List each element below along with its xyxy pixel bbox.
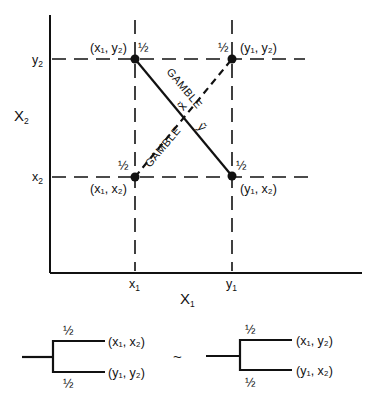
label-point-y1-x2: (y₁, x₂) xyxy=(240,182,277,196)
tick-y2: y2 xyxy=(32,53,43,69)
label-point-x1-x2: (x₁, x₂) xyxy=(90,182,127,196)
right-tree-bottom-prob: ½ xyxy=(245,376,256,390)
left-tree-top-prob: ½ xyxy=(63,324,74,338)
point-x1-x2 xyxy=(131,173,140,182)
left-tree-bottom-prob: ½ xyxy=(63,377,74,391)
prob-point-x1-x2: ½ xyxy=(118,159,129,173)
tick-x1: x1 xyxy=(129,277,140,293)
gamble-y-name: GAMBLE xyxy=(164,66,205,111)
y-axis-title: X2 xyxy=(14,107,29,126)
point-x1-y2 xyxy=(131,55,140,64)
right-tree-bottom-outcome: (y₁, x₂) xyxy=(296,364,333,378)
prob-point-y1-x2: ½ xyxy=(236,159,247,173)
tick-y1: y1 xyxy=(226,277,237,293)
label-point-x1-y2: (x₁, y₂) xyxy=(90,41,127,55)
right-tree xyxy=(206,339,292,371)
indifference-symbol: ~ xyxy=(173,348,182,365)
right-tree-top-outcome: (x₁, y₂) xyxy=(296,334,333,348)
left-tree-top-outcome: (x₁, x₂) xyxy=(108,335,145,349)
left-tree xyxy=(22,340,105,373)
tick-x2: x2 xyxy=(32,170,43,186)
gamble-diagram: (x₁, y₂) ½ ½ (y₁, y₂) ½ (x₁, x₂) ½ (y₁, … xyxy=(0,0,377,405)
prob-point-y1-y2: ½ xyxy=(218,41,229,55)
gamble-x-name: GAMBLE xyxy=(142,124,183,169)
point-y1-y2 xyxy=(228,55,237,64)
guide-lines xyxy=(52,20,310,271)
left-tree-bottom-outcome: (y₁, y₂) xyxy=(108,366,145,380)
prob-point-x1-y2: ½ xyxy=(138,41,149,55)
label-point-y1-y2: (y₁, y₂) xyxy=(240,41,277,55)
x-axis-title: X1 xyxy=(180,290,195,309)
right-tree-top-prob: ½ xyxy=(245,323,256,337)
